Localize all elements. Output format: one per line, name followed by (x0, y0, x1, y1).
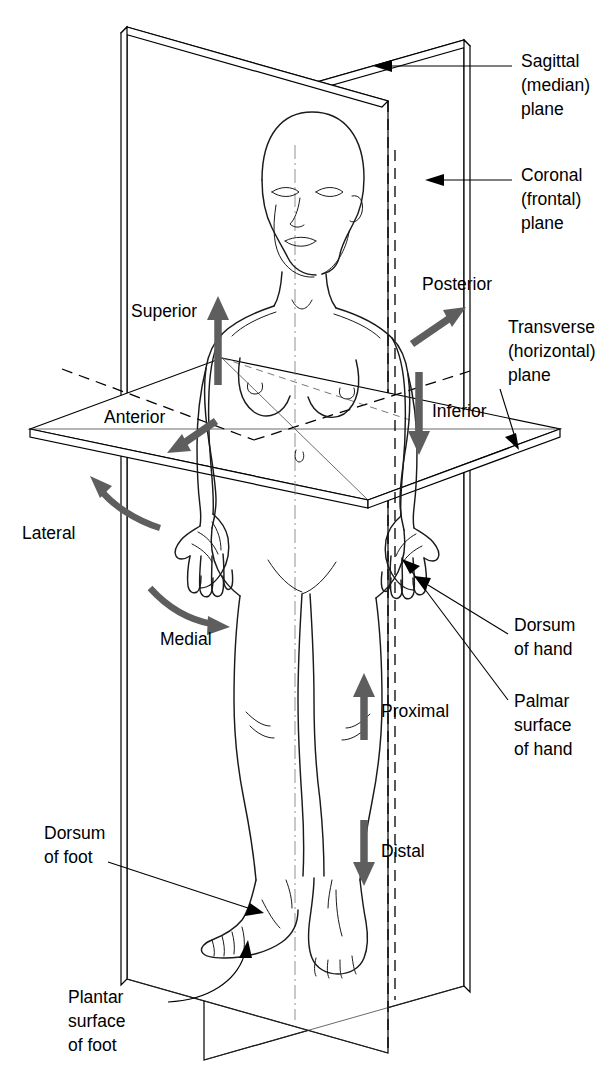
transverse-label-line3: plane (508, 365, 551, 385)
label-dorsum-of-foot: Dorsum of foot (44, 823, 105, 867)
coronal-label-line3: plane (521, 213, 564, 233)
label-distal: Distal (381, 841, 425, 861)
coronal-label-line1: Coronal (521, 165, 582, 185)
dorsum-hand-line2: of hand (514, 639, 572, 659)
label-superior: Superior (131, 301, 197, 321)
transverse-label-line2: (horizontal) (508, 341, 596, 361)
sagittal-label-line1: Sagittal (521, 51, 579, 71)
dorsum-foot-line1: Dorsum (44, 823, 105, 843)
label-lateral: Lateral (22, 523, 76, 543)
sagittal-plane-shape (121, 27, 388, 1053)
dorsum-foot-line2: of foot (44, 847, 93, 867)
sagittal-label-line3: plane (521, 99, 564, 119)
label-plantar-surface-of-foot: Plantar surface of foot (68, 987, 125, 1055)
label-posterior: Posterior (422, 274, 492, 294)
label-sagittal-plane: Sagittal (median) plane (521, 51, 590, 119)
palmar-hand-line3: of hand (514, 739, 572, 759)
plantar-foot-line1: Plantar (68, 987, 124, 1007)
label-dorsum-of-hand: Dorsum of hand (514, 615, 575, 659)
palmar-hand-line1: Palmar (514, 691, 570, 711)
label-medial: Medial (160, 629, 212, 649)
label-palmar-surface-of-hand: Palmar surface of hand (514, 691, 572, 759)
anatomical-planes-diagram: Sagittal (median) plane Coronal (frontal… (0, 0, 614, 1079)
transverse-label-line1: Transverse (508, 317, 595, 337)
palmar-hand-line2: surface (514, 715, 571, 735)
label-transverse-plane: Transverse (horizontal) plane (508, 317, 596, 385)
plantar-foot-line3: of foot (68, 1035, 117, 1055)
dorsum-hand-line1: Dorsum (514, 615, 575, 635)
label-coronal-plane: Coronal (frontal) plane (521, 165, 582, 233)
coronal-label-line2: (frontal) (521, 189, 581, 209)
label-proximal: Proximal (381, 701, 449, 721)
label-anterior: Anterior (104, 407, 165, 427)
label-inferior: Inferior (432, 401, 487, 421)
sagittal-label-line2: (median) (521, 75, 590, 95)
plantar-foot-line2: surface (68, 1011, 125, 1031)
